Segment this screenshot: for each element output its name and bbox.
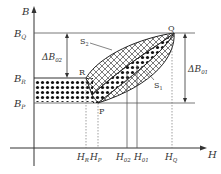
s2-leader xyxy=(90,43,112,50)
point-p-label: P xyxy=(99,107,105,116)
delta-b01-arrow xyxy=(183,33,187,103)
h02-label: H02 xyxy=(115,152,131,163)
diagram-canvas: B H BQ BR BP ΔB02 ΔB01 R P Q S2 S1 HR HP… xyxy=(0,0,221,174)
y-axis-label: B xyxy=(21,6,29,17)
delta-b02-label: ΔB02 xyxy=(41,52,63,63)
point-r-label: R xyxy=(79,68,86,77)
delta-b02-arrow xyxy=(65,33,69,78)
h01-label: H01 xyxy=(133,152,149,163)
hysteresis-diagram: B H BQ BR BP ΔB02 ΔB01 R P Q S2 S1 HR HP… xyxy=(0,0,221,174)
dotted-region xyxy=(35,79,93,102)
s2-label: S2 xyxy=(80,37,89,47)
br-label: BR xyxy=(13,73,26,85)
bp-label: BP xyxy=(13,98,26,110)
hr-label: HR xyxy=(76,152,89,163)
s1-label: S1 xyxy=(154,81,163,91)
hq-label: HQ xyxy=(164,152,178,163)
hp-label: HP xyxy=(89,152,102,163)
point-q-label: Q xyxy=(168,24,175,33)
delta-b01-label: ΔB01 xyxy=(187,64,208,75)
x-axis xyxy=(10,146,207,151)
bq-label: BQ xyxy=(13,28,26,40)
x-axis-label: H xyxy=(207,149,217,160)
